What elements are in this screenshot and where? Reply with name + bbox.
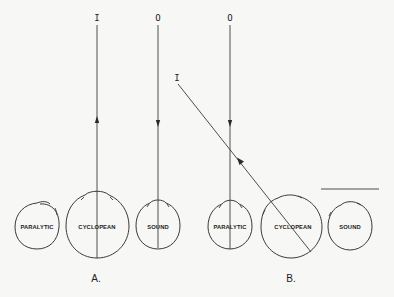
panel-b-input-marker: I [174, 73, 179, 83]
diagonal-arrow-icon [237, 158, 244, 166]
panel-a-cyclopean-eye: CYCLOPEAN [66, 191, 129, 258]
up-arrow-icon [95, 116, 99, 123]
panel-a-label: A. [91, 273, 100, 284]
cornea-tick-icon [219, 205, 242, 208]
down-arrow-icon [156, 120, 160, 127]
panel-b-sound-eye: SOUND [328, 202, 372, 250]
down-arrow-icon [228, 120, 232, 127]
sound-label: SOUND [339, 224, 360, 230]
sound-label: SOUND [147, 224, 168, 230]
paralytic-label: PARALYTIC [213, 224, 247, 230]
cyclopean-label: CYCLOPEAN [274, 224, 311, 230]
panel-b-cyclopean-eye: CYCLOPEAN [261, 195, 322, 258]
panel-a-paralytic-eye: PARALYTIC [15, 202, 59, 249]
panel-b-label: B. [286, 273, 295, 284]
panel-a-input-marker: I [94, 13, 99, 23]
panel-a-output-marker: O [155, 13, 160, 23]
cyclopean-label: CYCLOPEAN [78, 224, 115, 230]
paralytic-label: PARALYTIC [20, 224, 54, 230]
panel-a: I O PARALYTIC CYCLOPEAN SOUND A. [15, 13, 180, 284]
panel-b-output-marker: O [227, 13, 232, 23]
panel-b: O I PARALYTIC CYCLOPEAN SOUND B. [174, 13, 379, 284]
eye-direction-diagram: I O PARALYTIC CYCLOPEAN SOUND A. O I [0, 0, 394, 297]
